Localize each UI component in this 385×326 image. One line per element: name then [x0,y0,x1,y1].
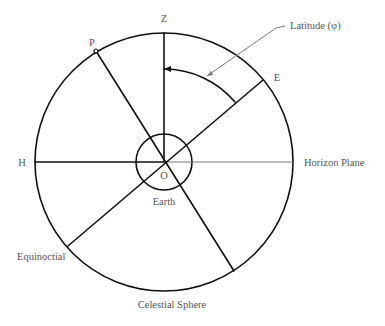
label-zenith: Z [161,13,167,24]
latitude-leader-line [207,26,285,76]
label-latitude: Latitude (φ) [290,20,341,32]
latitude-arrow-head-icon [164,66,171,72]
label-horizon-point: H [18,157,26,168]
label-earth: Earth [153,196,176,207]
equator-line [68,80,263,246]
label-pole: P [89,37,95,48]
leader-arrow-icon [207,71,213,76]
label-celestial-sphere: Celestial Sphere [138,299,207,310]
celestial-sphere-diagram: Z P E H O Earth Horizon Plane Equinoctia… [0,0,385,326]
pole-point-marker [94,49,98,53]
label-horizon-plane: Horizon Plane [304,157,365,168]
latitude-arc [164,69,235,102]
label-equinoctial: Equinoctial [17,251,65,262]
label-east: E [274,72,280,83]
label-origin: O [160,170,168,181]
